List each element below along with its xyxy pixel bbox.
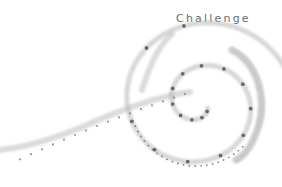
outer-dotted-arc-dot <box>194 165 196 167</box>
spiral-dot <box>181 72 185 76</box>
outer-dotted-arc-dot <box>223 159 225 161</box>
outer-dotted-arc-dot <box>137 131 139 133</box>
upper-swoosh-stroke <box>142 34 172 90</box>
tail-dot <box>74 134 76 136</box>
outer-dotted-arc-dot <box>200 165 202 167</box>
spiral-brush-strokes <box>0 23 282 162</box>
outer-dotted-arc-dot <box>156 152 158 154</box>
outer-dotted-arc-dot <box>233 153 235 155</box>
outer-dotted-arc-dot <box>238 150 240 152</box>
spiral-illustration-canvas: Challenge <box>0 0 282 187</box>
tail-dot <box>96 125 98 127</box>
outer-dotted-arc-dot <box>166 158 168 160</box>
outer-dotted-arc-dot <box>189 165 191 167</box>
outer-dotted-arc-dot <box>161 156 163 158</box>
outer-dotted-arc-dot <box>144 140 146 142</box>
spiral-dot <box>222 67 226 71</box>
tail-dot <box>41 148 43 150</box>
outer-dotted-arc-dot <box>212 163 214 165</box>
spiral-dot <box>130 119 134 123</box>
spiral-dot <box>249 107 253 111</box>
spiral-dot <box>171 87 175 91</box>
spiral-dot <box>145 46 149 50</box>
spiral-dots <box>19 24 253 167</box>
tail-dot <box>30 153 32 155</box>
tail-dot <box>85 129 87 131</box>
spiral-dot <box>241 133 245 137</box>
tail-dot <box>184 93 186 95</box>
spiral-dot <box>205 110 209 114</box>
tail-dot <box>107 121 109 123</box>
outer-dotted-arc-dot <box>135 125 137 127</box>
spiral-dot <box>200 116 204 120</box>
spiral-dot <box>190 118 194 122</box>
tail-dot <box>63 139 65 141</box>
spiral-dot <box>182 24 186 28</box>
spiral-dot <box>171 102 175 106</box>
tail-dot <box>19 158 21 160</box>
spiral-dot <box>179 114 183 118</box>
tail-dot <box>173 97 175 99</box>
outer-dotted-arc-dot <box>172 161 174 163</box>
tail-dot <box>118 116 120 118</box>
outer-dotted-arc-dot <box>217 161 219 163</box>
spiral-dot <box>241 82 245 86</box>
outer-dotted-arc-dot <box>152 149 154 151</box>
outer-dotted-arc-dot <box>228 156 230 158</box>
tail-dot <box>52 143 54 145</box>
spiral-dot <box>200 64 204 68</box>
outer-dotted-arc-dot <box>242 146 244 148</box>
spiral-dot <box>186 160 190 164</box>
tail-stroke <box>0 92 190 150</box>
tail-dot <box>151 104 153 106</box>
tail-dot <box>162 100 164 102</box>
outer-dotted-arc-dot <box>177 163 179 165</box>
tail-dot <box>129 112 131 114</box>
outer-dotted-arc-dot <box>147 145 149 147</box>
outer-dotted-arc-dot <box>140 136 142 138</box>
spiral-illustration-icon <box>0 0 282 187</box>
tail-dot <box>140 108 142 110</box>
outer-dotted-arc-dot <box>206 164 208 166</box>
spiral-dot <box>219 154 223 158</box>
outer-dotted-arc-dot <box>183 164 185 166</box>
